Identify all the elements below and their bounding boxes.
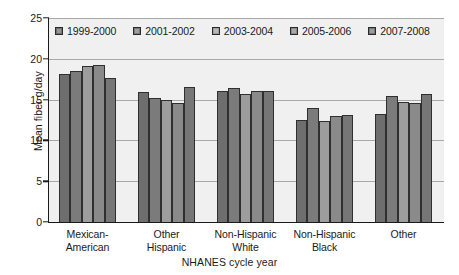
- bar[interactable]: [172, 103, 184, 222]
- bar[interactable]: [398, 102, 410, 222]
- y-tick-label-10: 10: [28, 135, 42, 146]
- bar[interactable]: [59, 74, 71, 222]
- bars-layer: [48, 18, 443, 222]
- bar[interactable]: [149, 98, 161, 222]
- bar[interactable]: [263, 91, 275, 222]
- x-tick-label-2: Non-HispanicWhite: [206, 228, 285, 253]
- bar[interactable]: [342, 115, 354, 222]
- bar[interactable]: [217, 91, 229, 222]
- bar-group-0: [59, 18, 117, 222]
- bar-group-1: [138, 18, 196, 222]
- bar[interactable]: [296, 120, 308, 222]
- bar[interactable]: [421, 94, 433, 222]
- x-tick-label-4: Other: [364, 228, 443, 241]
- y-tick-label-20: 20: [28, 54, 42, 65]
- x-tick-label-3: Non-HispanicBlack: [285, 228, 364, 253]
- bar-chart-figure: Mean fiber g/day 0510152025 1999-2000200…: [0, 0, 459, 275]
- bar[interactable]: [319, 121, 331, 222]
- bar[interactable]: [330, 116, 342, 222]
- bar[interactable]: [251, 91, 263, 222]
- bar[interactable]: [184, 87, 196, 222]
- bar-group-2: [217, 18, 275, 222]
- bar[interactable]: [105, 78, 117, 222]
- y-axis-title: Mean fiber g/day: [32, 26, 44, 196]
- y-tick-label-15: 15: [28, 94, 42, 105]
- bar[interactable]: [82, 66, 94, 222]
- y-tick-label-0: 0: [28, 217, 42, 228]
- bar[interactable]: [161, 100, 173, 222]
- bar[interactable]: [307, 108, 319, 222]
- bar-group-3: [296, 18, 354, 222]
- bar[interactable]: [386, 96, 398, 222]
- bar[interactable]: [228, 88, 240, 222]
- bar-group-4: [375, 18, 433, 222]
- bar[interactable]: [375, 114, 387, 222]
- x-axis-title: NHANES cycle year: [0, 256, 459, 268]
- bar[interactable]: [93, 65, 105, 222]
- y-tick-label-5: 5: [28, 176, 42, 187]
- bar[interactable]: [70, 71, 82, 222]
- y-tick-label-25: 25: [28, 13, 42, 24]
- bar[interactable]: [240, 94, 252, 222]
- x-axis-line: [48, 222, 444, 223]
- x-tick-label-0: Mexican-American: [48, 228, 127, 253]
- x-tick-label-1: OtherHispanic: [127, 228, 206, 253]
- bar[interactable]: [409, 103, 421, 222]
- bar[interactable]: [138, 92, 150, 222]
